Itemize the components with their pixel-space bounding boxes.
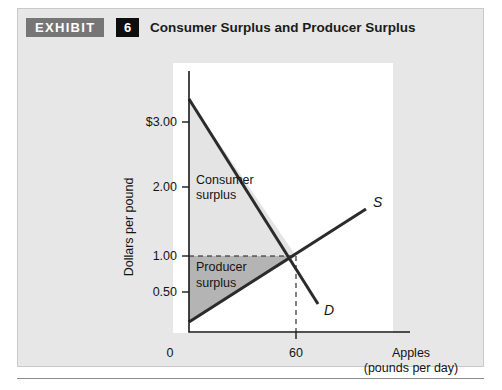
y-tick-label-2: 2.00 bbox=[153, 180, 177, 194]
exhibit-page: EXHIBIT 6 Consumer Surplus and Producer … bbox=[0, 0, 502, 390]
y-tick-label-0point5: 0.50 bbox=[153, 285, 177, 299]
y-tick-label-1: 1.00 bbox=[153, 249, 177, 263]
consumer-surplus-label-line2: surplus bbox=[196, 188, 236, 202]
y-axis-title: Dollars per pound bbox=[122, 178, 136, 277]
x-tick-label-60: 60 bbox=[289, 346, 303, 360]
x-axis-title: Apples bbox=[392, 346, 430, 360]
exhibit-card: EXHIBIT 6 Consumer Surplus and Producer … bbox=[17, 8, 484, 367]
x-tick-label-0: 0 bbox=[167, 346, 174, 360]
exhibit-header: EXHIBIT 6 Consumer Surplus and Producer … bbox=[18, 9, 483, 47]
producer-surplus-label-line2: surplus bbox=[196, 276, 236, 290]
consumer-surplus-label-line1: Consumer bbox=[196, 173, 254, 187]
y-tick-label-3: $3.00 bbox=[146, 115, 177, 129]
exhibit-number-badge: 6 bbox=[116, 18, 139, 37]
surplus-chart: $3.00 2.00 1.00 0.50 Dollars per pound 0… bbox=[18, 47, 485, 367]
x-axis-subtitle: (pounds per day) bbox=[364, 361, 459, 375]
demand-curve-label: D bbox=[324, 302, 334, 318]
exhibit-tag: EXHIBIT bbox=[26, 18, 104, 37]
supply-curve-label: S bbox=[373, 194, 383, 210]
exhibit-title: Consumer Surplus and Producer Surplus bbox=[150, 18, 416, 37]
footer-divider bbox=[17, 378, 484, 379]
producer-surplus-label-line1: Producer bbox=[196, 260, 247, 274]
figure-area: $3.00 2.00 1.00 0.50 Dollars per pound 0… bbox=[18, 47, 485, 367]
